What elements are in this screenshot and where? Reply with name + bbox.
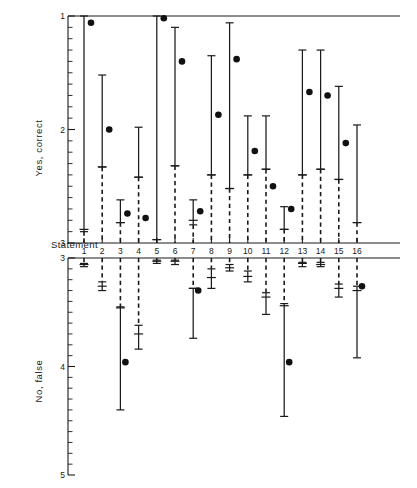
- data-column: [152, 258, 161, 263]
- data-column: [243, 116, 258, 243]
- data-column: [189, 258, 202, 338]
- mean-data-point: [233, 56, 240, 63]
- lower-panel-y-axis-title: No, false: [33, 360, 44, 403]
- mean-data-point: [142, 215, 149, 222]
- mean-data-point: [122, 359, 129, 366]
- data-column: [334, 258, 343, 297]
- x-tick-label: 13: [298, 246, 308, 256]
- data-column: [134, 258, 143, 349]
- data-column: [298, 258, 307, 267]
- mean-data-point: [197, 208, 204, 215]
- x-tick-label: 5: [154, 246, 159, 256]
- upper-panel-y-axis-title: Yes, correct: [33, 119, 44, 176]
- data-column: [225, 23, 240, 243]
- data-column: [116, 200, 131, 243]
- y-tick-label: 4: [60, 362, 65, 372]
- data-column: [116, 258, 129, 410]
- x-tick-label: 15: [334, 246, 344, 256]
- y-tick-label: 3: [60, 253, 65, 263]
- mean-data-point: [288, 206, 295, 213]
- x-tick-label: 3: [118, 246, 123, 256]
- mean-data-point: [215, 111, 222, 118]
- x-tick-label: 9: [227, 246, 232, 256]
- data-column: [262, 258, 271, 314]
- chart-figure: 123 345 12345678910111213141516 Yes, cor…: [0, 0, 417, 488]
- data-column: [134, 127, 149, 243]
- mean-data-point: [88, 20, 95, 27]
- data-column: [243, 258, 252, 282]
- x-tick-label: 12: [279, 246, 289, 256]
- mean-data-point: [286, 359, 293, 366]
- data-column: [171, 258, 180, 265]
- mean-data-point: [106, 126, 113, 133]
- lower-panel: 345: [60, 253, 400, 480]
- data-column: [316, 258, 325, 267]
- x-axis-title: Statement: [51, 239, 98, 250]
- x-tick-label: 8: [209, 246, 214, 256]
- mean-data-point: [270, 183, 277, 190]
- two-panel-range-chart: 123 345 12345678910111213141516 Yes, cor…: [0, 0, 417, 488]
- mean-data-point: [195, 287, 202, 294]
- data-column: [80, 258, 89, 267]
- data-column: [334, 86, 349, 243]
- data-column: [353, 125, 362, 243]
- data-column: [280, 206, 295, 243]
- data-column: [262, 116, 277, 243]
- x-tick-label: 10: [243, 246, 253, 256]
- mean-data-point: [252, 148, 259, 155]
- mean-data-point: [343, 140, 350, 147]
- data-column: [80, 16, 95, 243]
- x-tick-label: 2: [100, 246, 105, 256]
- x-axis: 12345678910111213141516: [68, 238, 400, 256]
- x-tick-label: 14: [316, 246, 326, 256]
- data-column: [316, 50, 331, 243]
- mean-data-point: [161, 15, 168, 22]
- data-column: [353, 258, 366, 358]
- mean-data-point: [124, 210, 131, 217]
- data-column: [298, 50, 313, 243]
- data-column: [225, 258, 234, 271]
- x-tick-label: 6: [173, 246, 178, 256]
- mean-data-point: [359, 283, 366, 290]
- data-column: [98, 258, 107, 291]
- data-column: [98, 75, 113, 243]
- data-column: [152, 15, 167, 243]
- data-column: [280, 258, 293, 416]
- x-tick-label: 16: [352, 246, 362, 256]
- x-tick-label: 11: [262, 246, 271, 256]
- mean-data-point: [306, 89, 313, 96]
- data-column: [207, 258, 216, 288]
- data-column: [189, 200, 204, 243]
- y-tick-label: 2: [60, 125, 65, 135]
- x-tick-label: 7: [191, 246, 196, 256]
- mean-data-point: [179, 58, 186, 65]
- upper-panel: 123: [60, 11, 400, 248]
- y-tick-label: 5: [60, 470, 65, 480]
- x-tick-label: 4: [136, 246, 141, 256]
- data-column: [207, 56, 222, 243]
- y-tick-label: 1: [60, 11, 65, 21]
- data-column: [171, 27, 186, 243]
- mean-data-point: [324, 92, 331, 99]
